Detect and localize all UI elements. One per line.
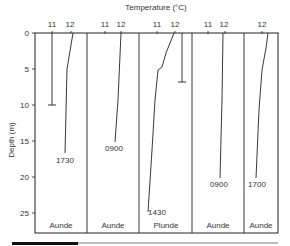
chart-title: Temperature (°C) (125, 3, 187, 12)
panel-5-profile (256, 33, 268, 178)
panel-5-tick-12: 12 (258, 20, 267, 29)
y-tick-0: 0 (25, 29, 30, 38)
panel-3-label: Plunde (154, 221, 179, 230)
panel-dividers (87, 33, 244, 233)
panel-1: 11 12 1730 Aunde (48, 20, 75, 230)
panel-4-tick-11: 11 (204, 20, 213, 29)
panel-5-time: 1700 (248, 180, 266, 189)
panel-2: 11 12 0900 Aunde (101, 20, 126, 230)
panel-5-label: Aunde (249, 221, 273, 230)
panel-3-tick-12: 12 (171, 20, 180, 29)
panel-3-tick-11: 11 (153, 20, 162, 29)
panel-5: 12 1700 Aunde (248, 20, 273, 230)
panel-4-profile (220, 33, 223, 178)
panel-2-profile (115, 33, 121, 142)
panel-3-profile (148, 33, 174, 212)
y-tick-20: 20 (20, 173, 29, 182)
y-tick-5: 5 (25, 65, 30, 74)
panel-1-profile (65, 33, 73, 153)
y-tick-25: 25 (20, 209, 29, 218)
panel-4-time: 0900 (210, 180, 228, 189)
panel-3: 11 12 1430 Plunde (148, 20, 186, 230)
panel-4-tick-12: 12 (220, 20, 229, 29)
panel-2-time: 0900 (105, 144, 123, 153)
panel-1-label: Aunde (49, 221, 73, 230)
panel-2-tick-12: 12 (117, 20, 126, 29)
panel-2-label: Aunde (101, 221, 125, 230)
bottom-rule-dark (12, 242, 78, 245)
temperature-depth-chart: Temperature (°C) Depth (m) 0 5 10 15 20 … (0, 0, 290, 246)
panel-1-tick-12: 12 (66, 20, 75, 29)
y-tick-10: 10 (20, 101, 29, 110)
panel-3-time: 1430 (148, 208, 166, 217)
panel-1-time: 1730 (56, 156, 74, 165)
panel-1-tick-11: 11 (48, 20, 57, 29)
panel-2-tick-11: 11 (101, 20, 110, 29)
plot-frame (35, 33, 278, 233)
panel-4: 11 12 0900 Aunde (204, 20, 230, 230)
y-tick-15: 15 (20, 137, 29, 146)
bottom-rule-light (78, 242, 278, 244)
panel-4-label: Aunde (206, 221, 230, 230)
y-axis-label: Depth (m) (7, 122, 16, 158)
